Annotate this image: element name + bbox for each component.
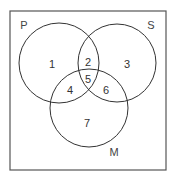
region-4-label: 4 (67, 84, 73, 96)
region-3-label: 3 (124, 58, 130, 70)
set-s-label: S (147, 19, 154, 31)
set-p-label: P (20, 19, 27, 31)
region-5-label: 5 (85, 73, 91, 85)
region-6-label: 6 (103, 84, 109, 96)
region-7-label: 7 (84, 117, 90, 129)
region-1-label: 1 (49, 58, 55, 70)
venn-diagram: P S M 1 2 3 4 5 6 7 (0, 0, 176, 179)
set-m-label: M (109, 146, 118, 158)
region-2-label: 2 (85, 56, 91, 68)
